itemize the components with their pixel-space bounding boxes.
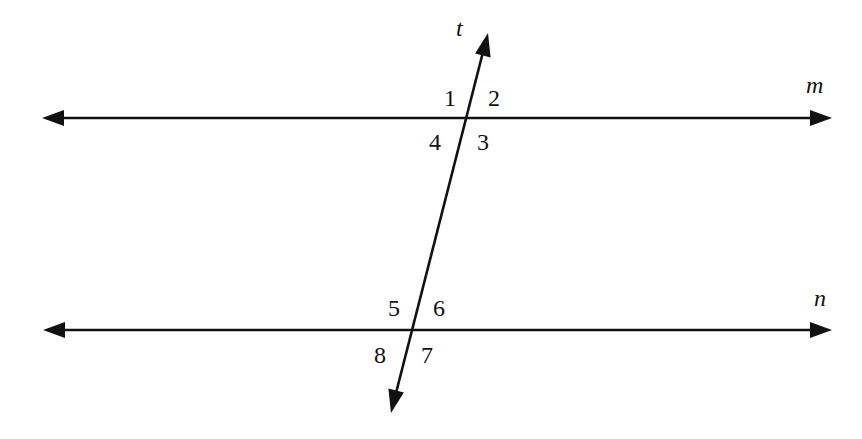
parallel-lines-transversal-diagram (0, 0, 862, 439)
angle-label-4: 4 (429, 130, 441, 154)
line-label-n: n (814, 286, 826, 310)
line-t (388, 33, 490, 413)
line-n-left-arrowhead-icon (43, 322, 65, 338)
line-label-m: m (806, 73, 823, 97)
angle-label-1: 1 (444, 86, 456, 110)
line-t-top-arrowhead-icon (475, 33, 491, 57)
line-t-bottom-arrowhead-icon (388, 389, 404, 413)
line-m-right-arrowhead-icon (810, 110, 832, 126)
angle-label-2: 2 (488, 86, 500, 110)
line-m-left-arrowhead-icon (42, 110, 64, 126)
angle-label-8: 8 (374, 343, 386, 367)
angle-label-7: 7 (421, 343, 433, 367)
angle-label-5: 5 (388, 296, 400, 320)
line-m (42, 110, 832, 126)
line-label-t: t (456, 16, 463, 40)
line-n (43, 322, 832, 338)
line-n-right-arrowhead-icon (810, 322, 832, 338)
angle-label-3: 3 (477, 130, 489, 154)
angle-label-6: 6 (433, 296, 445, 320)
